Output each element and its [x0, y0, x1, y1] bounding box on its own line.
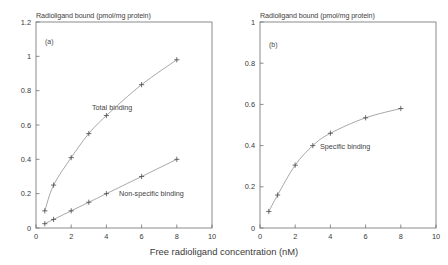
y-tick-label: 0.4	[21, 155, 31, 164]
panel-b-plot: 024681000.20.40.60.81	[224, 0, 448, 245]
figure-radioligand-binding: Radioligand bound (pmol/mg protein) (a) …	[0, 0, 448, 265]
series-curve	[45, 159, 177, 223]
x-tick-label: 10	[208, 232, 216, 241]
x-tick-label: 2	[293, 232, 297, 241]
x-tick-label: 10	[432, 232, 440, 241]
y-tick-label: 0.2	[245, 182, 255, 191]
x-tick-label: 2	[69, 232, 73, 241]
y-tick-label: 0.8	[21, 86, 31, 95]
x-tick-label: 8	[399, 232, 403, 241]
x-tick-label: 6	[140, 232, 144, 241]
x-tick-label: 8	[175, 232, 179, 241]
x-tick-label: 4	[104, 232, 108, 241]
x-tick-label: 0	[258, 232, 262, 241]
x-tick-label: 4	[328, 232, 332, 241]
x-tick-label: 0	[34, 232, 38, 241]
y-tick-label: 0.4	[245, 141, 255, 150]
series-markers	[266, 106, 403, 214]
y-tick-label: 0.6	[245, 100, 255, 109]
y-tick-label: 0.8	[245, 59, 255, 68]
series-label-specific-binding: Specific binding	[320, 142, 370, 151]
y-tick-label: 1	[27, 52, 31, 61]
panel-a: Radioligand bound (pmol/mg protein) (a) …	[0, 0, 224, 245]
y-tick-label: 0.6	[21, 121, 31, 130]
y-tick-label: 0	[251, 224, 255, 233]
series-markers	[42, 57, 179, 213]
panel-b: Radioligand bound (pmol/mg protein) (b) …	[224, 0, 448, 245]
x-tick-label: 6	[364, 232, 368, 241]
y-tick-label: 1.2	[21, 18, 31, 27]
y-tick-label: 1	[251, 18, 255, 27]
series-curve	[269, 109, 401, 212]
y-tick-label: 0	[27, 224, 31, 233]
y-tick-label: 0.2	[21, 189, 31, 198]
panel-a-plot: 024681000.20.40.60.811.2	[0, 0, 224, 245]
plot-frame	[36, 22, 212, 228]
figure-x-axis-label: Free radioligand concentration (nM)	[0, 246, 448, 257]
series-curve	[45, 60, 177, 211]
